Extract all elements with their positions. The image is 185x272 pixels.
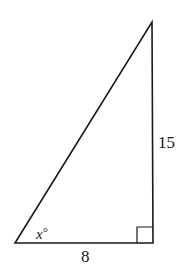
right-side-length-label: 15 (158, 134, 175, 151)
angle-variable: x (36, 226, 43, 242)
angle-label: x° (36, 225, 48, 242)
degree-symbol: ° (43, 224, 48, 239)
triangle-outline (15, 22, 153, 243)
right-angle-marker (137, 227, 153, 243)
bottom-side-length-label: 8 (81, 248, 90, 265)
